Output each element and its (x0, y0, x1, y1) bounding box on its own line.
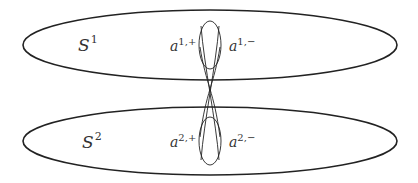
diagram-labels: S1a1,+a1,−S2a2,+a2,− (78, 33, 255, 152)
point-label-s1-plus: a1,+ (170, 36, 196, 54)
surfaces-diagram: S1a1,+a1,−S2a2,+a2,− (0, 0, 418, 183)
point-label-s1-minus: a1,− (229, 36, 255, 54)
surface-s1-loop (199, 21, 221, 69)
point-label-s2-minus: a2,− (229, 132, 255, 150)
surface-label-s2: S2 (82, 130, 102, 152)
surface-label-s1: S1 (78, 33, 98, 55)
connecting-strand-2 (201, 26, 219, 160)
point-label-s2-plus: a2,+ (170, 132, 196, 150)
